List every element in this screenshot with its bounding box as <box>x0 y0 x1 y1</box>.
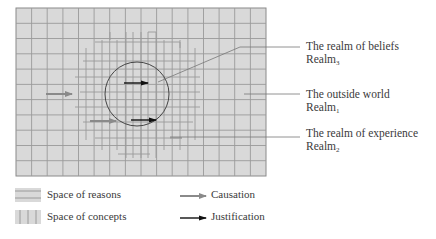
label-outside-title: The outside world <box>306 88 390 101</box>
label-outside-realm: Realm1 <box>306 101 390 118</box>
legend-justification: Justification <box>211 210 265 222</box>
legend-causation: Causation <box>211 188 255 200</box>
legend-swatch-concepts <box>15 210 41 224</box>
realms-diagram <box>0 0 436 239</box>
label-experience-title: The realm of experience <box>306 127 418 140</box>
label-beliefs-realm: Realm3 <box>306 53 399 70</box>
label-outside-world: The outside world Realm1 <box>306 88 390 118</box>
legend-space-of-reasons: Space of reasons <box>47 188 121 200</box>
legend-swatch-reasons <box>15 188 41 202</box>
label-realm-of-beliefs: The realm of beliefs Realm3 <box>306 40 399 70</box>
legend-space-of-concepts: Space of concepts <box>47 210 126 222</box>
label-experience-realm: Realm2 <box>306 140 418 157</box>
label-beliefs-title: The realm of beliefs <box>306 40 399 53</box>
label-realm-of-experience: The realm of experience Realm2 <box>306 127 418 157</box>
